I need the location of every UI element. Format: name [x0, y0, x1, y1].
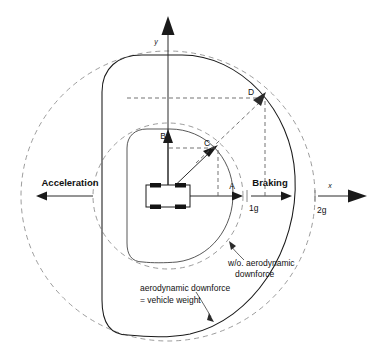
- note-without-downforce-line2: downforce: [235, 269, 274, 279]
- x-axis-far-arrow: [348, 190, 367, 203]
- note-with-downforce-line2: = vehicle weight: [140, 295, 201, 305]
- point-label-c: C: [204, 138, 210, 148]
- leader-arrow-with-downforce: [207, 313, 214, 322]
- point-label-a: A: [229, 181, 235, 191]
- x-axis-label: x: [327, 182, 332, 189]
- y-axis-label: y: [153, 38, 158, 46]
- y-axis-arrow: [162, 16, 175, 35]
- x-axis-arrow-a: [232, 192, 243, 201]
- acceleration-arrow-head: [36, 192, 47, 201]
- label-2g: 2g: [317, 205, 327, 215]
- wheel-rear-left: [150, 205, 161, 210]
- wheel-front-right: [175, 183, 186, 188]
- wheel-rear-right: [175, 205, 186, 210]
- label-braking: Braking: [252, 177, 288, 188]
- braking-arrow-head: [281, 192, 292, 201]
- gg-diagram-figure: y x A B C D 1g 2g Acceleration Braking w…: [0, 0, 377, 355]
- gg-diagram-canvas: y x A B C D 1g 2g Acceleration Braking w…: [0, 0, 377, 355]
- d-vector-arrow: [253, 92, 266, 106]
- label-1g: 1g: [249, 203, 259, 213]
- leader-arrow-without-downforce: [229, 241, 236, 250]
- point-label-b: B: [160, 131, 166, 141]
- wheel-front-left: [150, 183, 161, 188]
- label-acceleration: Acceleration: [41, 177, 98, 188]
- note-with-downforce-line1: aerodynamic downforce: [140, 283, 231, 293]
- vehicle-body: [146, 185, 190, 207]
- point-label-d: D: [248, 87, 254, 97]
- note-without-downforce-line1: w/o. aerodynamic: [227, 258, 295, 268]
